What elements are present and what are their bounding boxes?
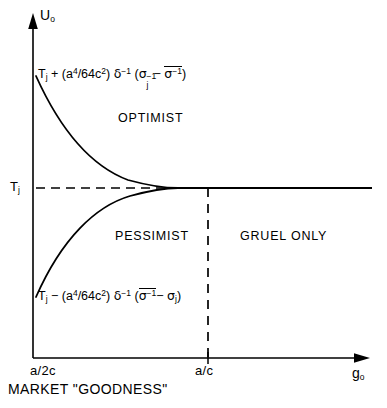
region-label-optimist: OPTIMIST (118, 112, 183, 125)
y-axis (28, 13, 38, 358)
figure-canvas: Uo go Tj a/2c a/c MARKET "GOODNESS" OPTI… (0, 0, 387, 408)
optimist-boundary-curve (36, 76, 178, 188)
equation-lower-endpoint: Tj − (a4/64c2) δ−1 (σ−1− σj) (38, 288, 181, 303)
y-axis-label: Uo (40, 8, 55, 24)
x-tick-label-ac: a/c (195, 364, 213, 377)
x-axis-label: go (352, 366, 365, 382)
plot-area (0, 0, 387, 408)
y-tick-label-tj: Tj (10, 180, 20, 195)
y-tick-label-sub: j (18, 185, 20, 195)
y-axis-label-main: U (40, 7, 50, 23)
y-tick-label-main: T (10, 179, 18, 194)
x-axis-label-main: g (352, 365, 360, 381)
x-tick-label-a2c: a/2c (30, 364, 56, 377)
region-label-pessimist: PESSIMIST (115, 230, 189, 243)
region-label-gruel-only: GRUEL ONLY (240, 230, 327, 243)
x-axis-label-sub: o (360, 372, 365, 382)
y-axis-label-sub: o (50, 14, 55, 24)
equation-upper-glyphs: Tj + (a4/64c2) δ−1 (σ−1j − σ−1) (38, 67, 186, 81)
equation-lower-glyphs: Tj − (a4/64c2) δ−1 (σ−1− σj) (38, 289, 181, 303)
x-axis (33, 353, 370, 363)
equation-upper-endpoint: Tj + (a4/64c2) δ−1 (σ−1j − σ−1) (38, 66, 186, 81)
x-axis-caption: MARKET "GOODNESS" (8, 382, 168, 396)
